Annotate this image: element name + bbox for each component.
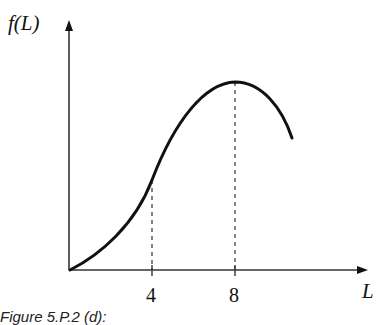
x-axis-arrow-icon [357, 266, 368, 274]
figure-caption: Figure 5.P.2 (d): [0, 308, 106, 325]
x-axis-label: L [361, 279, 374, 303]
function-curve [70, 82, 292, 270]
x-tick-label-4: 4 [146, 284, 156, 306]
y-axis-arrow-icon [65, 20, 73, 31]
y-axis-label: f(L) [8, 11, 40, 35]
x-tick-label-8: 8 [229, 284, 239, 306]
